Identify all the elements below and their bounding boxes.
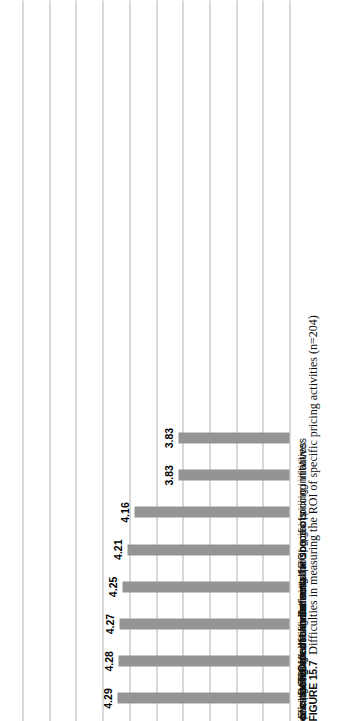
- bar: [127, 544, 289, 555]
- plot-area: 3.003.203.403.603.804.004.204.404.604.80…: [22, 0, 289, 721]
- gridline: [22, 0, 23, 721]
- gridline: [209, 0, 210, 721]
- gridline: [289, 0, 290, 721]
- bar-value-label: 4.16: [118, 489, 130, 535]
- gridline: [49, 0, 50, 721]
- bar: [134, 507, 289, 518]
- figure-page: 3.003.203.403.603.804.004.204.404.604.80…: [0, 0, 341, 721]
- bar: [122, 581, 289, 592]
- bar: [118, 655, 289, 666]
- gridline: [236, 0, 237, 721]
- gridline: [129, 0, 130, 721]
- gridline: [262, 0, 263, 721]
- figure-caption-text: Difficulties in measuring the ROI of spe…: [305, 315, 319, 654]
- bar: [178, 469, 289, 480]
- rotated-figure-stage: 3.003.203.403.603.804.004.204.404.604.80…: [0, 0, 341, 721]
- bar-chart: 3.003.203.403.603.804.004.204.404.604.80…: [0, 0, 300, 721]
- gridline: [182, 0, 183, 721]
- bar-value-label: 3.83: [162, 415, 174, 461]
- bar: [178, 432, 289, 443]
- gridline: [75, 0, 76, 721]
- figure-number: FIGURE 15.7: [306, 660, 318, 721]
- gridline: [102, 0, 103, 721]
- bar: [119, 618, 289, 629]
- bar: [117, 693, 289, 704]
- gridline: [156, 0, 157, 721]
- figure-caption: FIGURE 15.7 Difficulties in measuring th…: [306, 0, 319, 721]
